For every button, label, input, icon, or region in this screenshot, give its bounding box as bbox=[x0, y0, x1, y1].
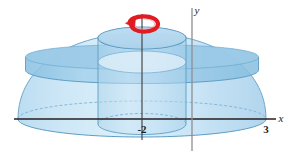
figure-canvas: x y -2 3 bbox=[0, 0, 296, 165]
tick-label-3: 3 bbox=[263, 123, 269, 135]
y-axis-label: y bbox=[194, 4, 200, 16]
tick-label-minus-2: -2 bbox=[137, 123, 147, 135]
solid-of-revolution-figure: x y -2 3 bbox=[0, 0, 296, 165]
x-axis-label: x bbox=[278, 112, 284, 124]
